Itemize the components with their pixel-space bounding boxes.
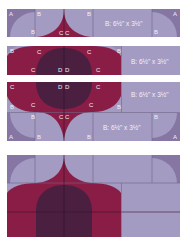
piece-label: B	[10, 104, 14, 110]
assembled-block-graphic	[7, 155, 180, 237]
size-label: B: 6½" x 3½"	[105, 20, 143, 27]
piece-label: C	[31, 67, 35, 73]
strip-bottom-rows: C D D C B: 6½" x 3½" B C B C B C C B B: …	[7, 82, 180, 141]
piece-label: C	[65, 114, 69, 120]
piece-label: C	[31, 102, 35, 108]
piece-label: C	[87, 49, 91, 55]
piece-label: D	[65, 84, 69, 90]
piece-label: C	[10, 84, 14, 90]
piece-label: C	[59, 114, 63, 120]
piece-label: B	[10, 48, 14, 54]
strip-middle-row: B C C B C D D C B: 6½" x 3½"	[7, 46, 180, 75]
piece-label: B	[154, 29, 158, 35]
piece-label: A	[9, 134, 13, 140]
piece-label: B	[37, 134, 41, 140]
piece-label: A	[9, 11, 13, 17]
piece-label: C	[65, 30, 69, 36]
piece-label: C	[89, 102, 93, 108]
piece-label: D	[58, 84, 62, 90]
piece-label: A	[173, 134, 177, 140]
piece-label: B	[31, 114, 35, 120]
piece-label: B	[154, 114, 158, 120]
piece-label: B	[87, 134, 91, 140]
piece-label: D	[58, 67, 62, 73]
piece-label: C	[96, 84, 100, 90]
size-label: B: 6½" x 3½"	[103, 124, 141, 131]
piece-label: B	[37, 11, 41, 17]
piece-label: C	[59, 30, 63, 36]
piece-label: C	[37, 49, 41, 55]
piece-label: C	[96, 67, 100, 73]
piece-label: B	[87, 11, 91, 17]
assembled-block	[7, 155, 180, 237]
size-label: B: 6½" x 3½"	[131, 91, 169, 98]
size-label: B: 6½" x 3½"	[131, 58, 169, 65]
piece-label: B	[117, 48, 121, 54]
strip-top-row: A B B B C C B: 6½" x 3½" B A	[7, 9, 180, 37]
piece-label: B	[117, 104, 121, 110]
piece-label: A	[173, 11, 177, 17]
piece-label: D	[65, 67, 69, 73]
piece-label: B	[31, 29, 35, 35]
